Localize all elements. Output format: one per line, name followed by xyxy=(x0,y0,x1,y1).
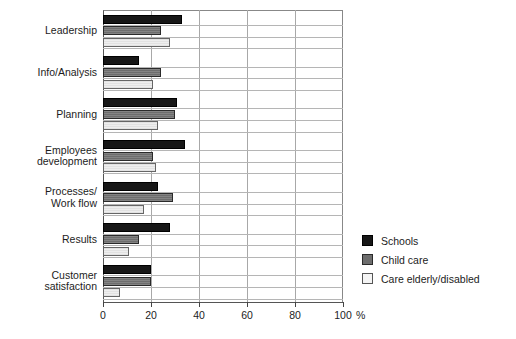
x-tick-label-0: 0 xyxy=(100,309,106,321)
gridline-80 xyxy=(295,10,296,302)
legend-label-child-care: Child care xyxy=(381,254,428,266)
row-separator xyxy=(103,173,343,174)
y-axis-label-1: Info/Analysis xyxy=(5,67,97,79)
bar-schools-1 xyxy=(103,56,139,65)
y-axis-label-4: Processes/ Work flow xyxy=(5,186,97,209)
row-separator xyxy=(103,287,343,288)
bar-elderly-5 xyxy=(103,247,129,256)
legend-swatch-child-care xyxy=(362,254,373,265)
x-tick-label-40: 40 xyxy=(193,309,205,321)
y-axis-label-0: Leadership xyxy=(5,25,97,37)
y-axis-label-3: Employees development xyxy=(5,145,97,168)
bar-elderly-3 xyxy=(103,163,156,172)
row-separator xyxy=(103,48,343,49)
bar-elderly-4 xyxy=(103,205,144,214)
legend-item-child-care[interactable]: Child care xyxy=(362,250,512,269)
legend-label-schools: Schools xyxy=(381,235,418,247)
row-separator xyxy=(103,245,343,246)
bar-elderly-0 xyxy=(103,38,170,47)
y-axis-label-2: Planning xyxy=(5,109,97,121)
bar-childcare-3 xyxy=(103,152,153,161)
legend-swatch-care-elderly-disabled xyxy=(362,273,373,284)
bar-childcare-1 xyxy=(103,68,161,77)
x-tick-mark-40 xyxy=(199,302,200,307)
x-tick-label-100: 100 xyxy=(334,309,352,321)
row-separator xyxy=(103,132,343,133)
x-axis-line xyxy=(103,302,344,303)
bar-schools-5 xyxy=(103,223,170,232)
legend: Schools Child care Care elderly/disabled xyxy=(362,231,512,288)
bar-elderly-6 xyxy=(103,288,120,297)
row-separator xyxy=(103,90,343,91)
bar-childcare-2 xyxy=(103,110,175,119)
x-tick-mark-0 xyxy=(103,302,104,307)
x-tick-mark-80 xyxy=(295,302,296,307)
bar-childcare-6 xyxy=(103,277,151,286)
bar-childcare-4 xyxy=(103,193,173,202)
y-axis-label-6: Customer satisfaction xyxy=(5,270,97,293)
x-tick-label-20: 20 xyxy=(145,309,157,321)
bar-elderly-2 xyxy=(103,121,158,130)
legend-item-care-elderly-disabled[interactable]: Care elderly/disabled xyxy=(362,269,512,288)
row-separator xyxy=(103,299,343,300)
y-axis-labels: LeadershipInfo/AnalysisPlanningEmployees… xyxy=(0,0,97,302)
legend-item-schools[interactable]: Schools xyxy=(362,231,512,250)
legend-label-care-elderly-disabled: Care elderly/disabled xyxy=(381,273,480,285)
x-tick-mark-20 xyxy=(151,302,152,307)
bar-schools-2 xyxy=(103,98,177,107)
bar-chart: LeadershipInfo/AnalysisPlanningEmployees… xyxy=(0,0,516,339)
x-tick-mark-100 xyxy=(343,302,344,307)
row-separator xyxy=(103,215,343,216)
bar-schools-4 xyxy=(103,182,158,191)
x-axis-unit-label: % xyxy=(356,309,365,321)
x-tick-label-80: 80 xyxy=(289,309,301,321)
gridline-40 xyxy=(199,10,200,302)
row-separator xyxy=(103,257,343,258)
x-tick-mark-60 xyxy=(247,302,248,307)
bar-schools-0 xyxy=(103,15,182,24)
bar-childcare-0 xyxy=(103,26,161,35)
y-axis-label-5: Results xyxy=(5,234,97,246)
bar-schools-6 xyxy=(103,265,151,274)
x-tick-label-60: 60 xyxy=(241,309,253,321)
legend-swatch-schools xyxy=(362,235,373,246)
row-separator xyxy=(103,234,343,235)
bar-elderly-1 xyxy=(103,80,153,89)
gridline-60 xyxy=(247,10,248,302)
bar-schools-3 xyxy=(103,140,185,149)
bar-childcare-5 xyxy=(103,235,139,244)
